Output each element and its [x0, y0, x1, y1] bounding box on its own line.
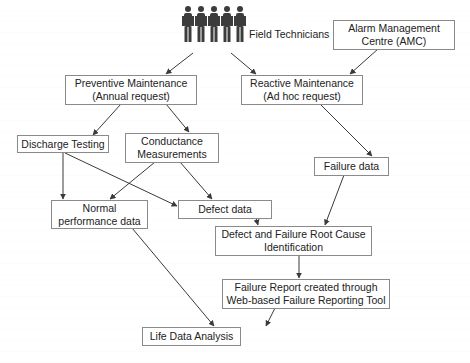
node-line: (Ad hoc request) — [263, 90, 341, 103]
edge-preventive-discharge — [93, 104, 121, 135]
node-line: Discharge Testing — [21, 138, 104, 151]
node-line: Failure data — [324, 160, 379, 173]
edge-failure-report-life-data — [266, 308, 275, 326]
node-line: Centre (AMC) — [362, 35, 427, 48]
node-normal-performance-data: Normal performance data — [51, 200, 148, 229]
node-line: Measurements — [137, 148, 206, 161]
node-line: Reactive Maintenance — [250, 77, 354, 90]
node-line: Defect and Failure Root Cause — [221, 228, 365, 241]
person-icon — [221, 5, 233, 43]
node-line: (Annual request) — [92, 90, 170, 103]
node-alarm-management-centre: Alarm Management Centre (AMC) — [333, 20, 455, 50]
edge-conductance-normal-perf — [110, 162, 155, 199]
edge-amc-reactive — [350, 49, 378, 74]
node-failure-data: Failure data — [314, 157, 389, 176]
node-defect-data: Defect data — [178, 200, 272, 219]
node-line: Normal — [83, 202, 117, 215]
node-failure-report: Failure Report created through Web-based… — [222, 279, 390, 309]
edge-conductance-defect-data — [180, 162, 212, 199]
person-icon — [182, 5, 194, 43]
edge-normal-perf-life-data — [132, 228, 214, 326]
node-line: Life Data Analysis — [150, 330, 233, 343]
node-life-data-analysis: Life Data Analysis — [142, 327, 241, 346]
field-technicians-group — [182, 5, 246, 43]
node-root-cause-identification: Defect and Failure Root Cause Identifica… — [215, 226, 372, 256]
node-line: Preventive Maintenance — [75, 77, 188, 90]
node-line: Web-based Failure Reporting Tool — [227, 294, 386, 307]
node-line: Defect data — [198, 203, 252, 216]
edge-failure-data-root-cause — [325, 175, 344, 225]
node-line: Conductance — [141, 135, 203, 148]
node-reactive-maintenance: Reactive Maintenance (Ad hoc request) — [241, 75, 363, 105]
edge-defect-data-root-cause — [256, 218, 258, 225]
person-icon — [208, 5, 220, 43]
node-conductance-measurements: Conductance Measurements — [125, 133, 219, 163]
edge-technicians-reactive — [231, 53, 256, 74]
node-line: Failure Report created through — [235, 281, 378, 294]
node-line: performance data — [58, 215, 140, 228]
node-line: Identification — [264, 241, 323, 254]
node-line: Alarm Management — [348, 22, 440, 35]
node-discharge-testing: Discharge Testing — [17, 135, 109, 153]
person-icon — [234, 5, 246, 43]
person-icon — [195, 5, 207, 43]
edge-reactive-failure-data — [320, 104, 372, 156]
edge-technicians-preventive — [166, 53, 193, 74]
edge-preventive-conductance — [166, 104, 189, 132]
node-preventive-maintenance: Preventive Maintenance (Annual request) — [65, 75, 197, 105]
field-technicians-label: Field Technicians — [249, 28, 329, 40]
